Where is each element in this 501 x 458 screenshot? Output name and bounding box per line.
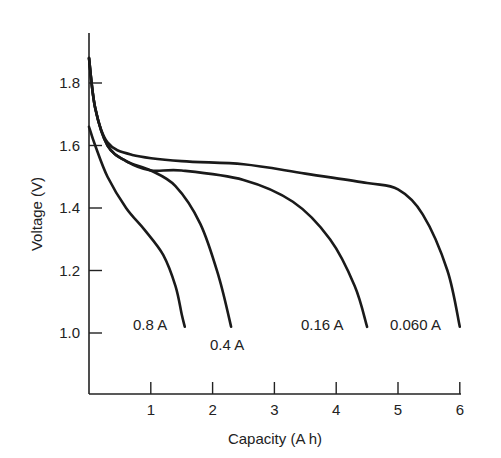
y-tick-label: 1.8 — [59, 74, 80, 91]
y-tick-label: 1.4 — [59, 199, 80, 216]
y-tick-label: 1.2 — [59, 262, 80, 279]
series-label-0.8A: 0.8 A — [133, 316, 167, 333]
series-label-0.16A: 0.16 A — [301, 316, 344, 333]
series-label-0.060A: 0.060 A — [390, 316, 441, 333]
discharge-curve-chart: 1.01.21.41.61.8 123456 0.8 A 0.4 A 0.16 … — [0, 0, 501, 458]
y-tick-label: 1.0 — [59, 324, 80, 341]
series-curves — [89, 58, 460, 327]
y-tick-label: 1.6 — [59, 137, 80, 154]
series-label-0.4A: 0.4 A — [210, 336, 244, 353]
x-tick-label: 4 — [332, 401, 340, 418]
x-tick-label: 1 — [147, 401, 155, 418]
axes — [89, 33, 461, 394]
x-tick-label: 6 — [456, 401, 464, 418]
curve-0.16A — [89, 58, 367, 327]
x-tick-label: 3 — [270, 401, 278, 418]
x-ticks: 123456 — [147, 382, 464, 418]
y-axis-title: Voltage (V) — [28, 177, 45, 251]
series-labels: 0.8 A 0.4 A 0.16 A 0.060 A — [133, 316, 441, 353]
x-tick-label: 5 — [394, 401, 402, 418]
x-axis-title: Capacity (A h) — [228, 430, 322, 447]
x-tick-label: 2 — [208, 401, 216, 418]
curve-0.4A — [89, 58, 231, 327]
